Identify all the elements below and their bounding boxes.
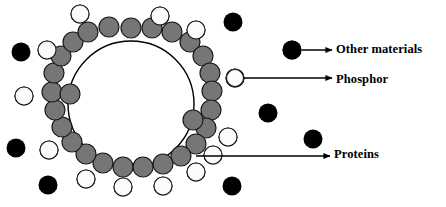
particle-schematic-figure: Other materials Phosphor Proteins [0, 0, 446, 207]
protein-circle [42, 82, 62, 102]
legend-marker-other-materials [283, 41, 302, 60]
other-material-dot [39, 176, 58, 195]
phosphor-particle-front [204, 146, 222, 164]
other-material-dot [7, 139, 26, 158]
protein-circle [183, 110, 203, 130]
protein-circle [133, 157, 153, 177]
protein-circle [99, 17, 119, 37]
protein-circle [162, 22, 182, 42]
diagram-canvas [0, 0, 446, 207]
protein-circle [153, 154, 173, 174]
phosphor-particle-front [15, 87, 33, 105]
protein-circle [113, 157, 133, 177]
protein-circle [200, 63, 220, 83]
legend-label-other-materials: Other materials [336, 43, 422, 56]
phosphor-particle-front [219, 128, 237, 146]
other-material-dot [304, 130, 323, 149]
phosphor-particle-front [40, 141, 58, 159]
protein-circle [202, 81, 222, 101]
phosphor-particle-front [77, 170, 95, 188]
protein-circle [121, 18, 141, 38]
protein-circle [78, 22, 98, 42]
phosphor-particle-front [187, 21, 205, 39]
legend-label-proteins: Proteins [334, 148, 379, 161]
phosphor-particle-front [114, 178, 132, 196]
phosphor-particle-front [187, 163, 205, 181]
phosphor-particle-front [151, 7, 169, 25]
phosphor-particle-front [71, 5, 89, 23]
legend-label-phosphor: Phosphor [336, 73, 388, 86]
protein-circle [45, 100, 65, 120]
other-material-dot [224, 13, 243, 32]
protein-circle [60, 84, 80, 104]
phosphor-particle-front [38, 41, 56, 59]
other-material-dot [259, 104, 278, 123]
phosphor-particle-front [154, 177, 172, 195]
protein-circle [201, 100, 221, 120]
protein-circle [171, 146, 191, 166]
other-material-dot [223, 177, 242, 196]
legend-marker-phosphor [227, 70, 244, 87]
other-material-dot [12, 43, 31, 62]
